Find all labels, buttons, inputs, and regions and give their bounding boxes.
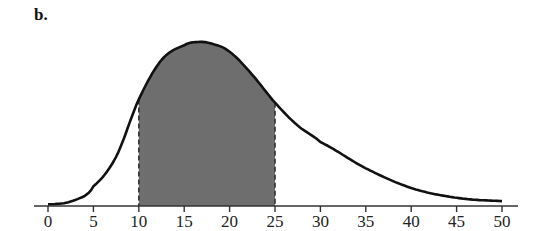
x-tick-label: 25	[267, 212, 284, 231]
x-tick-label: 40	[403, 212, 420, 231]
shaded-region	[139, 42, 275, 206]
x-tick-label: 15	[176, 212, 193, 231]
x-tick-label: 35	[357, 212, 374, 231]
x-tick-label: 20	[221, 212, 238, 231]
x-tick-label: 30	[312, 212, 329, 231]
x-tick-label: 45	[448, 212, 465, 231]
shaded-area	[139, 42, 275, 206]
x-axis-ticks: 05101520253035404550	[44, 206, 511, 231]
x-tick-label: 0	[44, 212, 53, 231]
x-tick-label: 10	[130, 212, 147, 231]
density-chart: 05101520253035404550	[0, 0, 543, 231]
x-tick-label: 5	[89, 212, 98, 231]
x-tick-label: 50	[494, 212, 511, 231]
